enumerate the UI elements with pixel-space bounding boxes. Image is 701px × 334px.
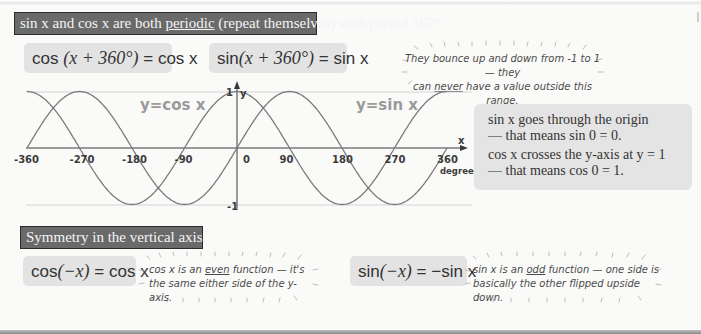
x-tick--270: -270 — [70, 154, 95, 165]
periodic-underlined: periodic — [165, 15, 214, 31]
formula-fn: cos — [31, 262, 57, 281]
trig-graph: y=cos x y=sin x y 1 -1 x degrees -360-27… — [0, 80, 480, 230]
even-note-text: cos x is an even function — it's the sam… — [137, 263, 320, 305]
even-note-line2: the same either side of the y-axis. — [149, 277, 320, 305]
y-tick-minus1: -1 — [227, 201, 238, 212]
cos-note-line1: cos x crosses the y-axis at y = 1 — [488, 147, 665, 162]
sin-period-formula: sin(x + 360°) = sin x — [209, 43, 347, 73]
y-tick-1: 1 — [226, 87, 233, 98]
range-note-line1: They bounce up and down from -1 to 1 — t… — [400, 52, 605, 80]
formula-rhs: = cos x — [143, 49, 197, 68]
x-axis-label: x — [458, 135, 465, 146]
periodic-banner-text: sin x and cos x are both — [20, 15, 165, 31]
even-note-line1: cos x is an even function — it's — [149, 263, 320, 277]
range-text-after: have a value outside this range. — [463, 81, 592, 106]
right-rule — [697, 12, 699, 22]
formula-fn: sin — [358, 262, 380, 281]
odd-note-line2: basically the other flipped upside down. — [473, 277, 663, 305]
sin-note-line2: — that means sin 0 = 0. — [488, 128, 622, 143]
odd-underlined: odd — [526, 264, 545, 275]
x-unit-label: degrees — [440, 166, 479, 176]
sin-odd-formula: sin(−x) = −sin x — [350, 256, 467, 286]
info-box: sin x goes through the origin — that mea… — [474, 104, 692, 190]
x-tick-360: 360 — [437, 154, 458, 165]
odd-note-bubble: sin x is an odd function — one side is b… — [463, 250, 663, 306]
x-tick--90: -90 — [175, 154, 193, 165]
x-tick-labels: -360-270-180-90090180270360 — [14, 154, 458, 165]
sin-note-line1: sin x goes through the origin — [488, 112, 649, 127]
odd-note-text: sin x is an odd function — one side is b… — [463, 263, 663, 305]
odd-text: sin x is an — [473, 264, 526, 275]
x-tick-90: 90 — [280, 154, 294, 165]
periodic-banner: sin x and cos x are both periodic (repea… — [14, 12, 317, 35]
formula-arg: (−x) — [380, 261, 412, 281]
formula-rhs: = sin x — [319, 49, 369, 68]
sin-origin-note: sin x goes through the origin — that mea… — [488, 112, 692, 144]
odd-text-after: function — one side is — [545, 264, 659, 275]
top-rule — [0, 2, 701, 5]
x-tick-0: 0 — [243, 154, 250, 165]
even-note-bubble: cos x is an even function — it's the sam… — [137, 250, 320, 306]
x-tick--360: -360 — [14, 154, 39, 165]
x-tick--180: -180 — [122, 154, 147, 165]
cos-note-line2: — that means cos 0 = 1. — [488, 163, 624, 178]
x-tick-270: 270 — [385, 154, 406, 165]
even-text: cos x is an — [149, 264, 205, 275]
formula-arg: (x + 360°) — [63, 48, 138, 68]
cos-even-formula: cos(−x) = cos x — [23, 256, 136, 286]
cos-period-formula: cos (x + 360°) = cos x — [24, 43, 172, 73]
formula-arg: (−x) — [57, 261, 89, 281]
periodic-banner-text-after: (repeat themselves) with period 360° — [215, 15, 441, 31]
symmetry-banner: Symmetry in the vertical axis: — [20, 226, 203, 249]
y-axis-label: y — [240, 88, 247, 99]
formula-fn: cos — [32, 49, 58, 68]
odd-note-line1: sin x is an odd function — one side is — [473, 263, 663, 277]
formula-arg: (x + 360°) — [239, 48, 314, 68]
sin-curve-label: y=sin x — [356, 96, 418, 114]
bottom-rule — [0, 330, 701, 334]
even-underlined: even — [205, 264, 230, 275]
cos-axis-note: cos x crosses the y-axis at y = 1 — that… — [488, 147, 692, 179]
cos-curve-label: y=cos x — [140, 96, 206, 114]
x-tick-180: 180 — [332, 154, 353, 165]
even-text-after: function — it's — [229, 264, 304, 275]
graph-canvas: y=cos x y=sin x y 1 -1 x degrees -360-27… — [0, 80, 480, 230]
formula-fn: sin — [217, 49, 239, 68]
